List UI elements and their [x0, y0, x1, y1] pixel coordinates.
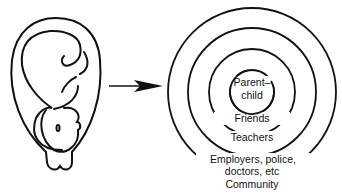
- fetus-in-womb-icon: [11, 18, 100, 169]
- label-friends: Friends: [234, 112, 269, 124]
- diagram-canvas: [0, 0, 342, 195]
- label-parent-line2: child: [241, 89, 263, 101]
- label-teachers: Teachers: [231, 131, 274, 143]
- label-parent-line1: Parent–: [234, 76, 271, 88]
- label-employers-line2: doctors, etc: [225, 165, 279, 177]
- label-community: Community: [225, 178, 278, 190]
- label-employers-line1: Employers, police,: [210, 153, 296, 165]
- right-arrow-icon: [109, 80, 163, 92]
